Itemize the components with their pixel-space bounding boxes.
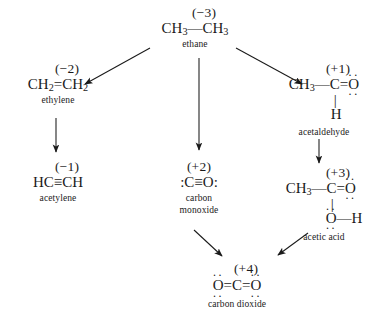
carbon-dioxide-right-oxygen: ··O··: [250, 277, 261, 294]
lone-pair-dots: ··: [325, 203, 336, 215]
carbon-dioxide-oxidation-number: (+4): [170, 262, 304, 276]
carbon-monoxide-name-line2: monoxide: [136, 205, 262, 217]
arrow-ethane-to-carbon-monoxide: [193, 58, 205, 156]
acetic-acid-hydroxyl: ··O··—H: [286, 211, 363, 226]
lone-pair-dots: ··: [348, 88, 359, 100]
acetaldehyde-carbonyl-oxygen: ··O··: [348, 77, 359, 92]
node-acetaldehyde: (+1) CH3—C=··O·· | H acetaldehyde: [260, 62, 388, 138]
ethane-formula: CH3—CH3: [132, 20, 258, 37]
acetic-acid-main-chain: CH3—C=··O··: [286, 180, 356, 196]
arrow-acetaldehyde-to-acetic-acid: [313, 139, 325, 169]
node-acetic-acid: (+3) CH3—C=··O·· | ··O··—H acetic acid: [260, 166, 388, 243]
carbon-dioxide-name: carbon dioxide: [170, 299, 304, 311]
arrow-ethylene-to-acetylene: [50, 118, 62, 158]
acetylene-oxidation-number: (−1): [2, 160, 114, 174]
node-carbon-monoxide: (+2) :C≡O: carbon monoxide: [136, 160, 262, 217]
lone-pair-dots: ··: [345, 173, 356, 185]
ethane-name: ethane: [132, 39, 258, 51]
acetaldehyde-formula: CH3—C=··O·· | H: [260, 76, 388, 124]
acetaldehyde-oxidation-number: (+1): [260, 62, 388, 76]
ethane-oxidation-number: (−3): [132, 6, 258, 20]
node-ethylene: (−2) CH2=CH2 ethylene: [2, 62, 114, 107]
node-acetylene: (−1) HC≡CH acetylene: [2, 160, 114, 205]
carbon-monoxide-oxidation-number: (+2): [136, 160, 262, 174]
node-carbon-dioxide: (+4) ··O··=C=··O·· carbon dioxide: [170, 262, 304, 311]
ethylene-name: ethylene: [2, 95, 114, 107]
ethylene-oxidation-number: (−2): [2, 62, 114, 76]
acetaldehyde-main-chain: CH3—C=··O··: [289, 76, 359, 92]
acetic-acid-hydroxyl-oxygen: ··O··: [326, 211, 337, 226]
diagram-canvas: (−3) CH3—CH3 ethane (−2) CH2=CH2 ethylen…: [0, 0, 388, 322]
node-ethane: (−3) CH3—CH3 ethane: [132, 6, 258, 51]
acetylene-name: acetylene: [2, 193, 114, 205]
carbon-monoxide-name-line1: carbon: [136, 193, 262, 205]
carbon-monoxide-formula: :C≡O:: [136, 174, 262, 191]
ethylene-formula: CH2=CH2: [2, 76, 114, 93]
carbon-dioxide-formula: ··O··=C=··O··: [170, 277, 304, 294]
lone-pair-dots: ··: [212, 290, 223, 302]
acetaldehyde-name: acetaldehyde: [260, 127, 388, 139]
carbon-dioxide-left-oxygen: ··O··: [213, 277, 224, 294]
lone-pair-dots: ··: [250, 290, 261, 302]
lone-pair-dots: ··: [325, 222, 336, 234]
acetic-acid-formula: CH3—C=··O·· | ··O··—H: [260, 180, 388, 228]
acetic-acid-carbonyl-oxygen: ··O··: [345, 181, 356, 196]
lone-pair-dots: ··: [212, 269, 223, 281]
acetylene-formula: HC≡CH: [2, 174, 114, 191]
acetic-acid-oxidation-number: (+3): [260, 166, 388, 180]
lone-pair-dots: ··: [345, 192, 356, 204]
lone-pair-dots: ··: [348, 69, 359, 81]
acetaldehyde-hydrogen: H: [289, 107, 359, 122]
lone-pair-dots: ··: [250, 269, 261, 281]
arrow-carbon-monoxide-to-carbon-dioxide: [192, 228, 240, 264]
acetic-acid-name: acetic acid: [260, 232, 388, 244]
